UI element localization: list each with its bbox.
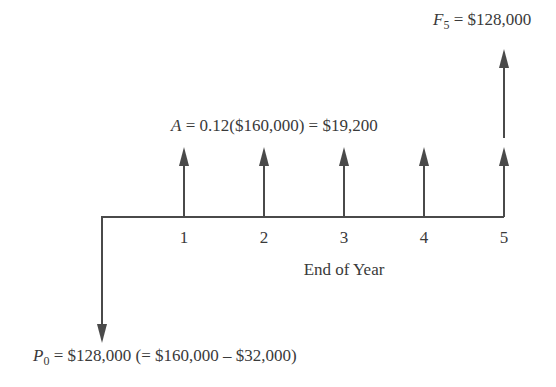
cash-flow-diagram xyxy=(0,0,556,387)
year-label-3: 3 xyxy=(340,229,349,246)
annuity-label: A = 0.12($160,000) = $19,200 xyxy=(171,117,378,134)
present-value-arrow xyxy=(97,216,107,343)
annuity-arrow-year-3 xyxy=(339,147,349,217)
annuity-symbol: A xyxy=(171,116,181,135)
future-value-arrow xyxy=(499,49,509,138)
present-value-label: P0 = $128,000 (= $160,000 – $32,000) xyxy=(33,347,297,367)
year-label-4: 4 xyxy=(420,229,429,246)
annuity-arrow-year-5 xyxy=(499,147,509,217)
present-value-symbol: P xyxy=(33,346,43,365)
future-value-symbol: F xyxy=(433,10,443,29)
future-value-label: F5 = $128,000 xyxy=(433,11,531,31)
time-axis-title: End of Year xyxy=(304,261,385,278)
year-label-5: 5 xyxy=(500,229,509,246)
present-value-amount: = $128,000 (= $160,000 – $32,000) xyxy=(49,346,296,365)
annuity-amount: = 0.12($160,000) = $19,200 xyxy=(181,116,377,135)
annuity-arrow-year-1 xyxy=(179,147,189,217)
year-label-2: 2 xyxy=(260,229,269,246)
annuity-arrow-year-4 xyxy=(419,147,429,217)
annuity-arrow-year-2 xyxy=(259,147,269,217)
future-value-amount: = $128,000 xyxy=(449,10,531,29)
year-label-1: 1 xyxy=(180,229,189,246)
